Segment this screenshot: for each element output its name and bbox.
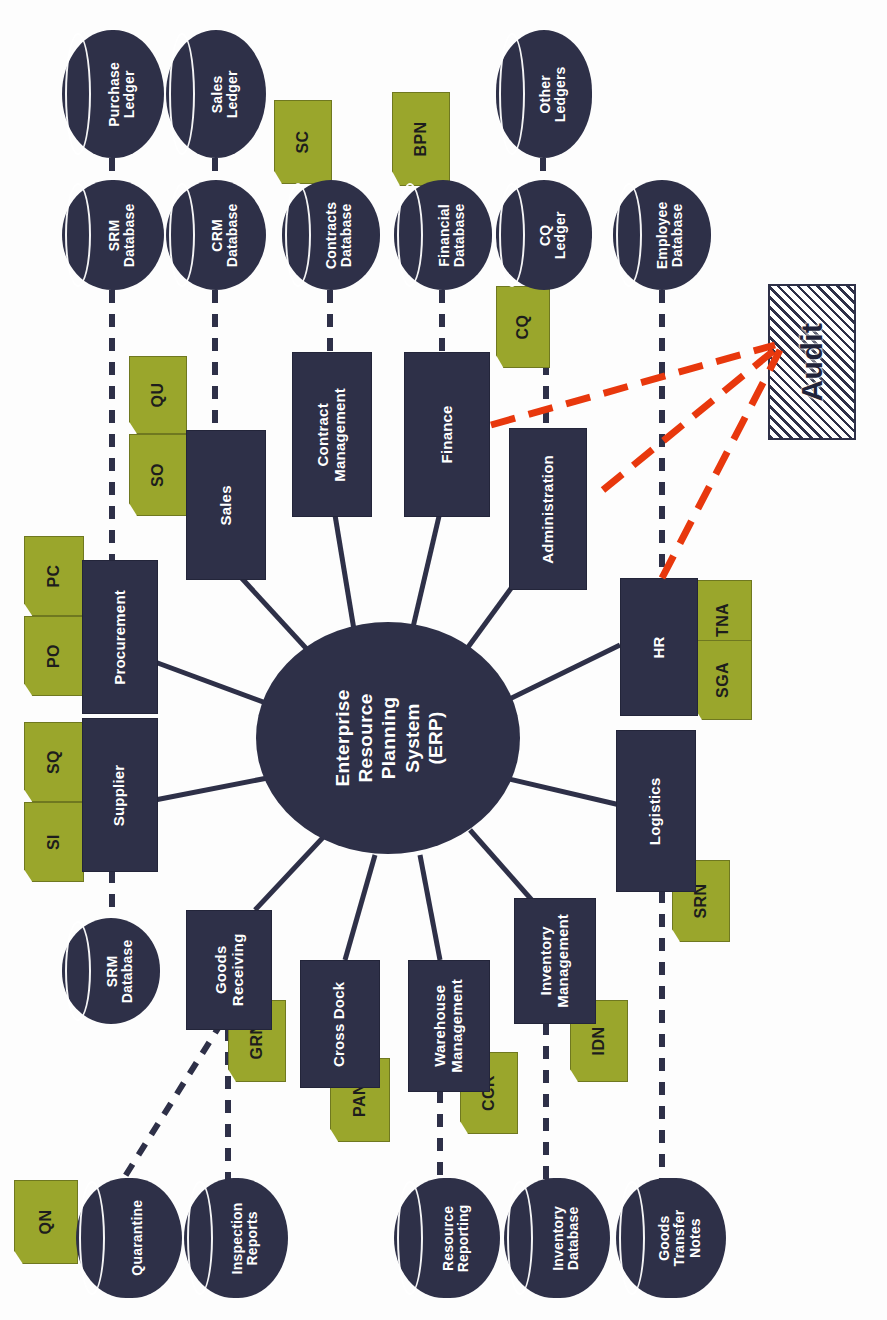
database-crm: CRMDatabase bbox=[166, 180, 266, 290]
tag-si[interactable]: SI bbox=[24, 802, 84, 882]
module-label: InventoryManagement bbox=[538, 914, 572, 1008]
hub-label: EnterpriseResourcePlanningSystem(ERP) bbox=[330, 690, 446, 787]
database-inventory: InventoryDatabase bbox=[504, 1178, 610, 1298]
tag-label: SI bbox=[46, 834, 62, 850]
spoke-hub-crossdock bbox=[345, 855, 375, 960]
tag-label: CQ bbox=[515, 315, 531, 340]
database-purchase-ledger: PurchaseLedger bbox=[62, 30, 164, 158]
tag-so[interactable]: SO bbox=[129, 434, 187, 516]
module-procurement[interactable]: Procurement bbox=[82, 560, 158, 714]
tag-label: SO bbox=[150, 463, 166, 487]
database-label: CRMDatabase bbox=[210, 203, 241, 267]
tag-label: PO bbox=[46, 644, 62, 668]
module-logistics[interactable]: Logistics bbox=[616, 730, 696, 892]
audit-box: Audit bbox=[768, 284, 856, 440]
tag-label: SQ bbox=[46, 750, 62, 774]
tag-sc[interactable]: SC bbox=[274, 100, 332, 184]
spoke-hub-warehouse bbox=[420, 855, 440, 960]
database-cq-ledger: CQLedger bbox=[496, 180, 592, 290]
tag-po[interactable]: PO bbox=[24, 616, 84, 696]
link-grn-quarantine bbox=[124, 1022, 222, 1178]
database-label: SRMDatabase bbox=[105, 939, 136, 1003]
database-label: ContractsDatabase bbox=[325, 201, 356, 268]
tag-cq[interactable]: CQ bbox=[496, 286, 550, 368]
audit-label: Audit bbox=[795, 322, 829, 401]
database-label: FinancialDatabase bbox=[437, 203, 468, 267]
module-label: Procurement bbox=[112, 590, 129, 685]
module-inventory-management[interactable]: InventoryManagement bbox=[514, 898, 596, 1024]
database-goods-transfer-notes: GoodsTransferNotes bbox=[616, 1178, 726, 1298]
tag-sq[interactable]: SQ bbox=[24, 722, 84, 802]
database-contracts: ContractsDatabase bbox=[282, 180, 380, 290]
tag-label: QU bbox=[150, 383, 166, 408]
tag-label: SGA bbox=[715, 662, 731, 698]
database-inspection-reports: InspectionReports bbox=[184, 1178, 288, 1298]
database-sales-ledger: SalesLedger bbox=[166, 30, 266, 158]
module-cross-dock[interactable]: Cross Dock bbox=[300, 960, 380, 1088]
database-employee: EmployeeDatabase bbox=[613, 180, 711, 290]
tag-label: SC bbox=[295, 130, 311, 153]
module-warehouse-management[interactable]: WarehouseManagement bbox=[408, 960, 490, 1092]
tag-label: BPN bbox=[413, 122, 429, 157]
database-label: ResourceReporting bbox=[441, 1204, 472, 1272]
database-resource-reporting: ResourceReporting bbox=[394, 1178, 500, 1298]
tag-pc[interactable]: PC bbox=[24, 536, 84, 616]
tag-label: IDN bbox=[591, 1027, 607, 1056]
spoke-hub-finance bbox=[410, 512, 440, 640]
module-goods-receiving[interactable]: GoodsReceiving bbox=[186, 910, 272, 1030]
database-label: EmployeeDatabase bbox=[656, 201, 687, 269]
module-finance[interactable]: Finance bbox=[404, 352, 490, 517]
tag-qu[interactable]: QU bbox=[129, 356, 187, 434]
tag-sga[interactable]: SGA bbox=[694, 640, 752, 720]
tag-label: TNA bbox=[715, 603, 731, 637]
tag-qn[interactable]: QN bbox=[14, 1180, 78, 1264]
module-supplier[interactable]: Supplier bbox=[82, 718, 158, 872]
database-label: Quarantine bbox=[130, 1200, 145, 1276]
module-contract-management[interactable]: ContractManagement bbox=[292, 352, 372, 517]
database-label: InventoryDatabase bbox=[551, 1206, 582, 1271]
module-hr[interactable]: HR bbox=[620, 578, 698, 716]
module-label: Sales bbox=[218, 485, 235, 525]
database-label: SalesLedger bbox=[210, 70, 241, 118]
module-label: Supplier bbox=[112, 764, 129, 826]
module-label: HR bbox=[651, 636, 668, 658]
module-label: WarehouseManagement bbox=[432, 979, 466, 1073]
database-other-ledgers: OtherLedgers bbox=[496, 30, 592, 158]
module-label: GoodsReceiving bbox=[212, 934, 246, 1007]
module-label: Logistics bbox=[648, 777, 665, 845]
database-quarantine: Quarantine bbox=[76, 1178, 182, 1298]
database-label: OtherLedgers bbox=[538, 66, 569, 122]
database-label: CQLedger bbox=[538, 211, 569, 259]
tag-label: PAN bbox=[352, 1083, 368, 1117]
erp-architecture-diagram: PurchaseLedger SalesLedger OtherLedgers … bbox=[0, 0, 887, 1320]
database-label: GoodsTransferNotes bbox=[657, 1210, 703, 1267]
tag-bpn[interactable]: BPN bbox=[392, 92, 450, 186]
module-sales[interactable]: Sales bbox=[186, 430, 266, 580]
tag-label: QN bbox=[38, 1210, 54, 1235]
erp-hub: EnterpriseResourcePlanningSystem(ERP) bbox=[256, 622, 520, 854]
module-label: Cross Dock bbox=[332, 981, 349, 1066]
database-label: InspectionReports bbox=[230, 1202, 261, 1274]
module-label: Finance bbox=[439, 405, 456, 463]
database-label: PurchaseLedger bbox=[107, 62, 138, 127]
database-srm-lower: SRMDatabase bbox=[62, 918, 160, 1024]
database-label: SRMDatabase bbox=[107, 203, 138, 267]
spoke-hub-goods bbox=[255, 830, 330, 910]
module-administration[interactable]: Administration bbox=[509, 428, 587, 590]
tag-label: PC bbox=[46, 564, 62, 587]
module-label: Administration bbox=[540, 455, 557, 564]
database-financial: FinancialDatabase bbox=[394, 180, 492, 290]
database-srm-top: SRMDatabase bbox=[62, 180, 164, 290]
module-label: ContractManagement bbox=[315, 388, 349, 482]
